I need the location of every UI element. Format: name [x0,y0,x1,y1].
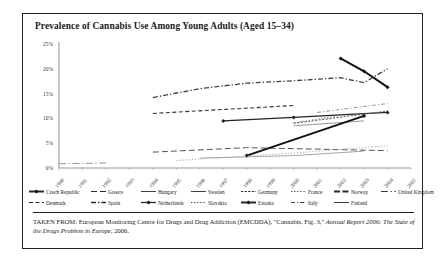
legend-item-hungary[interactable]: Hungary [141,186,177,197]
caption-prefix: TAKEN FROM: European Monitoring Centre f… [33,218,326,225]
series-line-sweden [200,151,364,158]
legend-key-icon [29,199,44,206]
legend-item-finland[interactable]: Finland [334,197,367,208]
y-tick-10pct: 10% [33,115,53,121]
legend-item-united-kingdom[interactable]: United Kingdom [381,186,434,197]
legend-item-italy[interactable]: Italy [291,197,318,208]
legend-label: United Kingdom [398,189,434,195]
legend-label: Italy [308,200,318,206]
legend-label: Sweden [208,189,225,195]
series-marker [221,119,225,123]
chart-area: 0%5%10%15%20%25% 19901991199219931994199… [33,38,414,190]
legend-label: Hungary [158,189,177,195]
legend-label: Norway [351,189,368,195]
legend-item-denmark[interactable]: Denmark [29,197,66,208]
legend-key-icon [91,188,106,195]
legend-label: Czech Republic [46,189,80,195]
legend-item-germany[interactable]: Germany [241,186,278,197]
legend-label: Germany [258,189,278,195]
legend-label: Netherlands [158,200,184,206]
legend-label: Greece [108,189,123,195]
series-marker [292,115,296,119]
legend-item-greece[interactable]: Greece [91,186,123,197]
legend-key-icon [91,199,106,206]
y-tick-5pct: 5% [33,140,53,146]
legend-label: Finland [351,200,367,206]
legend-key-icon [141,188,156,195]
legend-item-sweden[interactable]: Sweden [191,186,225,197]
legend-key-icon [29,188,44,195]
legend-label: Spain [108,200,120,206]
legend-item-spain[interactable]: Spain [91,197,120,208]
legend-key-icon [291,199,306,206]
y-tick-0pct: 0% [33,165,53,171]
legend-label: Slovakia [208,200,227,206]
caption-suffix: , 2006. [111,227,129,234]
legend-item-czech-republic[interactable]: Czech Republic [29,186,80,197]
legend-key-icon [191,188,206,195]
legend-item-netherlands[interactable]: Netherlands [141,197,184,208]
line-chart-svg [33,38,414,190]
legend-row-2: DenmarkSpainNetherlandsSlovakiaEstoniaIt… [29,197,419,208]
chart-legend: Czech RepublicGreeceHungarySwedenGermany… [29,186,419,210]
series-line-united-kingdom [59,163,106,164]
legend-label: France [308,189,322,195]
legend-item-france[interactable]: France [291,186,322,197]
legend-label: Denmark [46,200,66,206]
figure-frame: Prevalence of Cannabis Use Among Young A… [22,13,423,249]
legend-key-icon [334,188,349,195]
legend-key-icon [141,199,156,206]
legend-key-icon [241,199,256,206]
series-line-spain [153,69,388,98]
series-line-denmark [153,106,294,114]
legend-label: Estonia [258,200,274,206]
legend-key-icon [191,199,206,206]
legend-item-estonia[interactable]: Estonia [241,197,274,208]
page-title: Prevalence of Cannabis Use Among Young A… [35,21,294,31]
legend-row-1: Czech RepublicGreeceHungarySwedenGermany… [29,186,419,197]
legend-item-norway[interactable]: Norway [334,186,368,197]
source-caption: TAKEN FROM: European Monitoring Centre f… [33,217,416,236]
y-tick-25pct: 25% [33,41,53,47]
legend-key-icon [241,188,256,195]
y-tick-15pct: 15% [33,91,53,97]
legend-key-icon [291,188,306,195]
y-tick-20pct: 20% [33,66,53,72]
legend-key-icon [334,199,349,206]
legend-item-slovakia[interactable]: Slovakia [191,197,227,208]
series-line-hungary [294,121,364,126]
divider [33,212,414,213]
legend-key-icon [381,188,396,195]
series-line-italy [317,104,387,113]
